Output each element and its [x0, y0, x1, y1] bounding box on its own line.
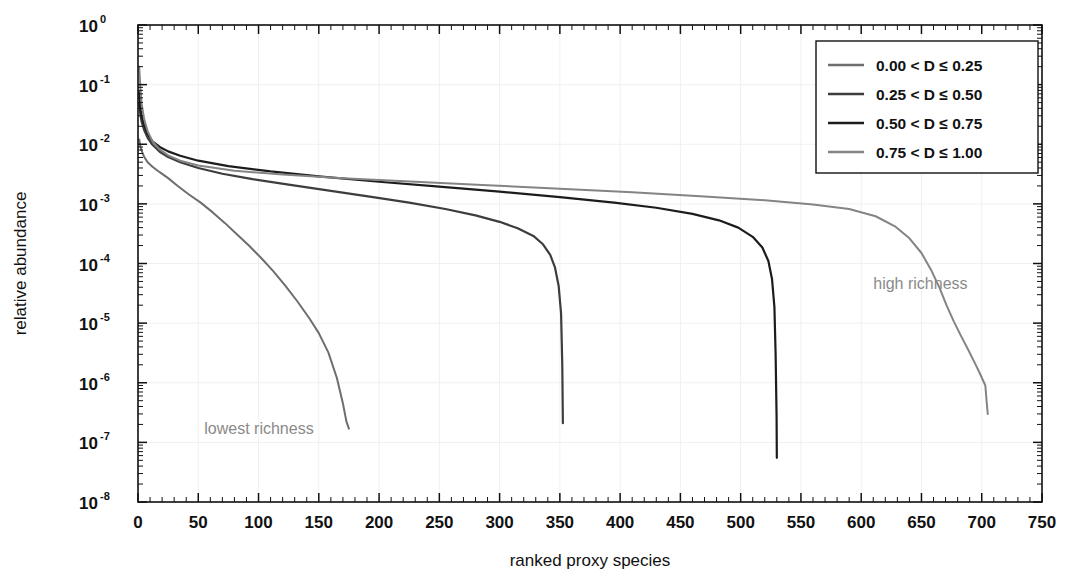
svg-text:10: 10 — [79, 434, 98, 453]
y-tick-label: 10-8 — [79, 490, 110, 513]
plot-annotation: lowest richness — [204, 420, 313, 437]
y-tick-label: 100 — [79, 13, 106, 36]
svg-text:-5: -5 — [100, 311, 110, 323]
y-tick-label: 10-7 — [79, 430, 110, 453]
x-tick-label: 50 — [189, 513, 208, 532]
svg-text:-8: -8 — [100, 490, 110, 502]
y-tick-label: 10-6 — [79, 371, 110, 394]
x-axis-title: ranked proxy species — [510, 551, 671, 570]
svg-text:10: 10 — [79, 375, 98, 394]
svg-text:10: 10 — [79, 256, 98, 275]
svg-text:10: 10 — [79, 196, 98, 215]
y-tick-label: 10-1 — [79, 73, 110, 96]
svg-text:-3: -3 — [100, 192, 110, 204]
x-tick-label: 100 — [244, 513, 272, 532]
svg-text:-6: -6 — [100, 371, 110, 383]
y-tick-label: 10-5 — [79, 311, 110, 334]
legend-item-label: 0.75 < D ≤ 1.00 — [876, 144, 982, 161]
x-tick-label: 400 — [606, 513, 634, 532]
x-tick-label: 200 — [365, 513, 393, 532]
svg-text:-7: -7 — [100, 430, 110, 442]
x-tick-label: 550 — [787, 513, 815, 532]
x-tick-label: 700 — [968, 513, 996, 532]
x-tick-label: 300 — [485, 513, 513, 532]
svg-text:-2: -2 — [100, 132, 110, 144]
x-tick-label: 150 — [305, 513, 333, 532]
y-tick-label: 10-4 — [79, 252, 111, 275]
x-tick-label: 450 — [666, 513, 694, 532]
svg-text:10: 10 — [79, 17, 98, 36]
legend[interactable]: 0.00 < D ≤ 0.250.25 < D ≤ 0.500.50 < D ≤… — [816, 41, 1038, 173]
chart-figure: 0501001502002503003504004505005506006507… — [0, 0, 1082, 584]
x-tick-label: 500 — [726, 513, 754, 532]
legend-item-label: 0.25 < D ≤ 0.50 — [876, 86, 982, 103]
y-tick-label: 10-3 — [79, 192, 110, 215]
x-tick-label: 0 — [133, 513, 142, 532]
svg-text:10: 10 — [79, 315, 98, 334]
x-tick-label: 350 — [546, 513, 574, 532]
x-tick-label: 650 — [907, 513, 935, 532]
svg-text:10: 10 — [79, 77, 98, 96]
plot-annotation: high richness — [873, 275, 967, 292]
y-tick-label: 10-2 — [79, 132, 110, 155]
svg-text:-4: -4 — [100, 252, 111, 264]
legend-item-label: 0.50 < D ≤ 0.75 — [876, 115, 983, 132]
x-tick-label: 600 — [847, 513, 875, 532]
x-tick-label: 250 — [425, 513, 453, 532]
svg-text:10: 10 — [79, 494, 98, 513]
svg-text:10: 10 — [79, 136, 98, 155]
svg-text:-1: -1 — [100, 73, 110, 85]
legend-item-label: 0.00 < D ≤ 0.25 — [876, 57, 983, 74]
relative-abundance-rank-plot: 0501001502002503003504004505005506006507… — [0, 0, 1082, 584]
svg-text:0: 0 — [100, 13, 106, 25]
y-axis-title: relative abundance — [11, 192, 30, 336]
x-tick-label: 750 — [1028, 513, 1056, 532]
